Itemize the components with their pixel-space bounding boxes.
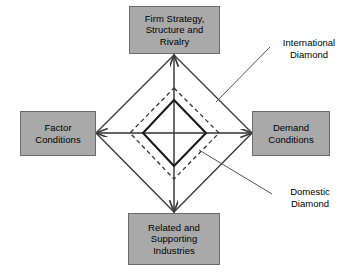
node-factor-conditions-label: Factor Conditions: [33, 122, 82, 145]
node-factor-conditions[interactable]: Factor Conditions: [20, 111, 96, 156]
node-demand-conditions-label: Demand Conditions: [266, 122, 315, 145]
node-firm-strategy-label: Firm Strategy, Structure and Rivalry: [143, 13, 207, 48]
node-firm-strategy[interactable]: Firm Strategy, Structure and Rivalry: [129, 6, 220, 54]
node-related-supporting-industries-label: Related and Supporting Industries: [146, 222, 202, 257]
annotation-domestic-diamond: Domestic Diamond: [274, 186, 346, 209]
porter-diamond-diagram: Firm Strategy, Structure and Rivalry Fac…: [0, 0, 348, 272]
leader-international-diamond: [216, 47, 270, 102]
leader-domestic-diamond: [199, 150, 272, 194]
annotation-international-diamond: International Diamond: [272, 37, 346, 60]
node-related-supporting-industries[interactable]: Related and Supporting Industries: [128, 213, 220, 265]
node-demand-conditions[interactable]: Demand Conditions: [252, 111, 330, 156]
outer-diamond: [96, 55, 252, 212]
